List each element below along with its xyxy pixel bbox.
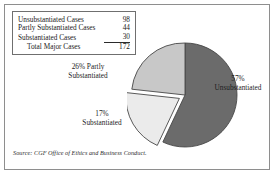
- row-label-total: Total Major Cases: [18, 42, 104, 51]
- pie-slice-partly-substantiated: [132, 43, 185, 95]
- pie-label-partly-substantiated: 26% Partly Substantiated: [57, 62, 119, 80]
- pie-label-unsubstantiated: 57% Unsubstantiated: [201, 74, 275, 92]
- source-note: Source: CGF Office of Ethics and Busines…: [13, 149, 147, 156]
- pie-label-unsubstantiated-line2: Unsubstantiated: [201, 83, 275, 92]
- row-label-substantiated: Substantiated Cases: [18, 33, 104, 42]
- case-counts-table: Unsubstantiated Cases 98 Partly Substant…: [18, 15, 130, 51]
- pie-label-substantiated-line1: 17%: [73, 109, 131, 118]
- figure-frame: Unsubstantiated Cases 98 Partly Substant…: [4, 4, 270, 170]
- pie-label-unsubstantiated-line1: 57%: [201, 74, 275, 83]
- table-row: Substantiated Cases 30: [18, 33, 130, 42]
- summary-table-box: Unsubstantiated Cases 98 Partly Substant…: [12, 11, 136, 55]
- pie-label-substantiated-line2: Substantiated: [73, 118, 131, 127]
- pie-label-partly-line2: Substantiated: [57, 71, 119, 80]
- pie-label-substantiated: 17% Substantiated: [73, 109, 131, 127]
- table-row: Partly Substantiated Cases 44: [18, 24, 130, 33]
- table-row-total: Total Major Cases 172: [18, 42, 130, 51]
- row-label-partly-substantiated: Partly Substantiated Cases: [18, 24, 104, 33]
- pie-label-partly-line1: 26% Partly: [57, 62, 119, 71]
- pie-chart: [127, 39, 243, 151]
- pie-chart-svg: [127, 39, 243, 151]
